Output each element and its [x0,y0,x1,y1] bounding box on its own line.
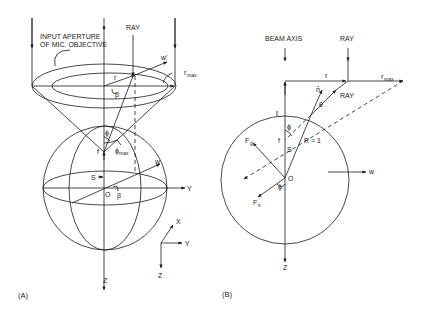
r-max-subscript: max [384,76,394,82]
origin-label: O [288,175,294,182]
s-label: S [287,146,292,153]
panel-b-caption: (B) [222,290,233,299]
radius-label: R = 1 [304,137,321,144]
ray-label: RAY [126,24,140,31]
figure-canvas: INPUT APERTURE OF MIC. OBJECTIVE RAY w' … [0,0,421,313]
r-label: r [114,74,117,81]
aperture-label-line2: OF MIC. OBJECTIVE [40,41,108,48]
scattering-force-label: F [253,199,257,206]
panel-a-diagram: INPUT APERTURE OF MIC. OBJECTIVE RAY w' … [18,18,197,300]
beam-axis-label: BEAM AXIS [265,35,303,42]
scattering-force-subscript: s [258,202,261,208]
ell-label: ℓ [275,109,279,118]
s-label: S [91,174,96,181]
theta-label: θ [319,101,323,108]
aperture-label-line1: INPUT APERTURE [40,33,101,40]
w-prime-label: w' [160,54,167,61]
w-label: w [154,158,161,165]
r-max-subscript: max [187,72,197,78]
z-axis-label: Z [283,264,288,271]
triad-x [161,225,173,243]
focus-label: f [278,137,280,144]
ray-label-top: RAY [340,35,354,42]
gradient-force-label: F [245,137,249,144]
phi-label: ϕ [105,129,109,137]
z-axis-label: Z [103,277,108,284]
r-label: r [325,72,328,79]
normal-label: n̂ [316,86,320,93]
focus-label: f [97,148,99,155]
phi-max-subscript: max [119,150,129,156]
w-label: w [368,168,375,175]
beta-label-top: β [115,91,119,99]
phi-label-top: ϕ [287,123,291,131]
y-axis-label: Y [187,185,192,192]
triad-y-label: Y [185,240,190,247]
triad-z-label: Z [158,272,163,279]
cone-left [32,86,104,152]
origin-label: O [105,191,111,198]
panel-a-caption: (A) [18,291,29,300]
beta-label-bottom: β [117,192,121,200]
phi-label-bottom: ϕ [278,183,282,191]
gradient-force-subscript: g [250,140,253,146]
ray-label-refracted: RAY [340,92,354,99]
panel-b-diagram: BEAM AXIS RAY RAY r r max n̂ θ ℓ ϕ f S R… [221,35,403,299]
triad-x-label: X [176,218,181,225]
